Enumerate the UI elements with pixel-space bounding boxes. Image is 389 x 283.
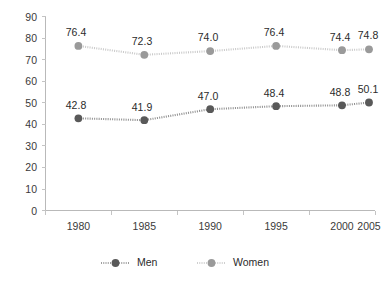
data-point-men-1990	[206, 105, 214, 113]
data-label-men-1980: 42.8	[66, 99, 87, 111]
legend-swatch-women-marker	[208, 259, 216, 267]
data-point-women-1990	[206, 47, 214, 55]
data-point-men-2000	[338, 101, 346, 109]
data-point-men-2005	[365, 99, 373, 107]
data-point-women-1980	[75, 42, 83, 50]
data-point-women-1995	[272, 42, 280, 50]
data-point-men-1980	[75, 114, 83, 122]
data-label-men-1985: 41.9	[132, 101, 153, 113]
series-line-men	[78, 103, 369, 121]
legend-label-women: Women	[233, 256, 269, 268]
y-axis-label-0: 0	[31, 205, 37, 217]
data-label-men-1990: 47.0	[198, 90, 219, 102]
x-axis-label-1995: 1995	[264, 220, 288, 232]
data-point-women-2005	[365, 45, 373, 53]
x-axis-label-1980: 1980	[67, 220, 91, 232]
y-axis-label-60: 60	[25, 75, 37, 87]
legend-swatch-men-marker	[112, 259, 120, 267]
data-label-women-2005: 74.8	[358, 29, 379, 41]
y-axis-label-50: 50	[25, 97, 37, 109]
legend: Men Women	[101, 256, 269, 268]
x-axis-label-1990: 1990	[199, 220, 223, 232]
data-label-women-1985: 72.3	[132, 35, 153, 47]
legend-item-women[interactable]: Women	[197, 256, 269, 268]
legend-item-men[interactable]: Men	[101, 256, 158, 268]
data-label-women-2000: 74.4	[330, 31, 351, 43]
data-label-men-2005: 50.1	[358, 83, 379, 95]
data-point-men-1995	[272, 102, 280, 110]
data-label-men-1995: 48.4	[264, 87, 285, 99]
data-point-men-1985	[140, 116, 148, 124]
data-label-women-1980: 76.4	[66, 26, 87, 38]
x-axis-label-1985: 1985	[133, 220, 157, 232]
y-axis-label-90: 90	[25, 11, 37, 23]
y-axis-label-40: 40	[25, 118, 37, 130]
line-chart: 90 80 70 60 50 40 30 20 10 0 1980 1985 1…	[0, 0, 389, 283]
data-label-women-1990: 74.0	[198, 31, 219, 43]
y-axis-label-20: 20	[25, 161, 37, 173]
legend-label-men: Men	[137, 256, 158, 268]
series-line-women	[78, 46, 369, 55]
y-axis-label-80: 80	[25, 32, 37, 44]
data-point-women-2000	[338, 46, 346, 54]
y-axis-label-70: 70	[25, 54, 37, 66]
data-point-women-1985	[140, 51, 148, 59]
chart-canvas: 90 80 70 60 50 40 30 20 10 0 1980 1985 1…	[0, 0, 389, 283]
x-axis-label-2000: 2000	[330, 220, 354, 232]
y-axis-label-30: 30	[25, 140, 37, 152]
y-axis-label-10: 10	[25, 183, 37, 195]
data-label-men-2000: 48.8	[330, 86, 351, 98]
data-label-women-1995: 76.4	[264, 26, 285, 38]
x-axis-label-2005: 2005	[357, 220, 381, 232]
